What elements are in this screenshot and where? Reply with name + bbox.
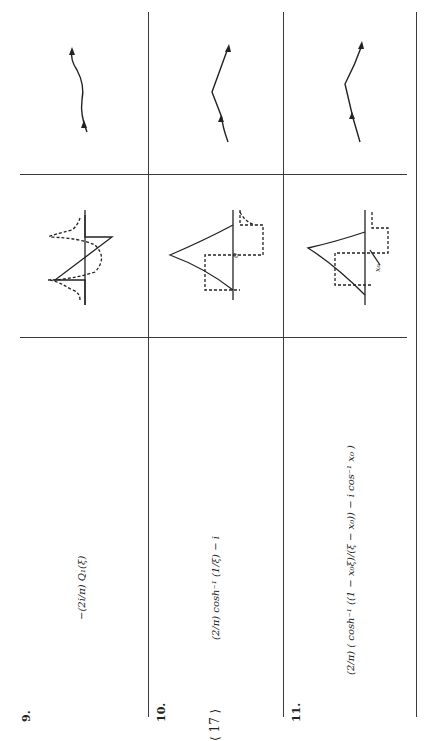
page-number: ⟨ 17 ⟩ — [208, 709, 222, 741]
contour-11 — [0, 0, 431, 741]
